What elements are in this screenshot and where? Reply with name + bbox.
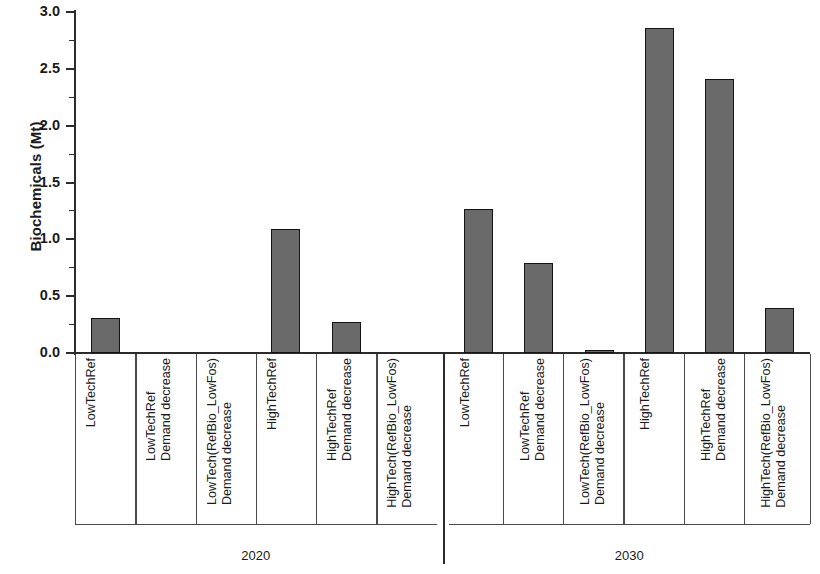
category-label: LowTech(RefBio_LowFos)Demand decrease [578,358,607,505]
bar [271,229,300,353]
category-label: HighTechRefDemand decrease [325,358,354,461]
category-separator [135,354,136,524]
category-label-line: HighTech(RefBio_LowFos) [759,358,774,508]
group-underline [449,524,811,525]
category-label-line: Demand decrease [159,358,174,461]
category-separator-edge [810,354,811,524]
y-tick-3.0 [66,11,74,13]
category-label-line: LowTech(RefBio_LowFos) [205,358,220,505]
bar [585,350,614,353]
y-tick-minor [69,97,74,98]
category-label-line: Demand decrease [532,358,547,461]
bar [765,308,794,353]
category-label-line: LowTechRef [144,358,159,461]
category-label-line: Demand decrease [773,358,788,508]
category-separator-edge [75,354,76,524]
category-separator [503,354,504,524]
category-label: LowTechRef [458,358,473,427]
bar [645,28,674,353]
category-label-line: HighTechRef [699,358,714,461]
y-tick-label-0.5: 0.5 [8,287,60,303]
bar [464,209,493,353]
group-separator [443,354,445,564]
category-separator [196,354,197,524]
category-label-line: HighTech(RefBio_LowFos) [385,358,400,508]
category-label-line: HighTechRef [265,358,280,430]
category-separator [684,354,685,524]
category-label-line: HighTechRef [638,358,653,430]
y-tick-0.0 [66,352,74,354]
category-label-line: LowTechRef [84,358,99,427]
bar-chart: Biochemicals (Mt) 0.00.51.01.52.02.53.0 … [0,0,820,574]
y-tick-label-3.0: 3.0 [8,3,60,19]
category-label-line: Demand decrease [713,358,728,461]
category-separator [376,354,377,524]
category-label: HighTech(RefBio_LowFos)Demand decrease [385,358,414,508]
bar [524,263,553,353]
category-label: HighTechRefDemand decrease [699,358,728,461]
group-underline [75,524,437,525]
category-separator [563,354,564,524]
y-tick-label-2.5: 2.5 [8,60,60,76]
category-separator [744,354,745,524]
category-label-line: Demand decrease [340,358,355,461]
group-label-2030: 2030 [449,548,811,563]
category-label-line: LowTech(RefBio_LowFos) [578,358,593,505]
y-tick-0.5 [66,295,74,297]
y-tick-minor [69,154,74,155]
category-label: LowTechRefDemand decrease [144,358,173,461]
category-label: LowTechRef [84,358,99,427]
y-tick-minor [69,324,74,325]
y-axis-line [74,10,76,355]
category-separator [256,354,257,524]
group-label-2020: 2020 [75,548,437,563]
category-separator [316,354,317,524]
bar [91,318,120,353]
category-label-line: Demand decrease [400,358,415,508]
y-tick-label-1.0: 1.0 [8,230,60,246]
y-tick-label-1.5: 1.5 [8,174,60,190]
y-tick-minor [69,40,74,41]
category-label: LowTech(RefBio_LowFos)Demand decrease [205,358,234,505]
category-label: HighTech(RefBio_LowFos)Demand decrease [759,358,788,508]
category-label: LowTechRefDemand decrease [518,358,547,461]
category-label: HighTechRef [638,358,653,430]
bar [705,79,734,353]
y-tick-1.5 [66,182,74,184]
y-tick-2.5 [66,68,74,70]
category-label-line: Demand decrease [219,358,234,505]
y-tick-2.0 [66,125,74,127]
category-separator [623,354,624,524]
category-label-line: LowTechRef [518,358,533,461]
y-tick-minor [69,210,74,211]
category-label-line: Demand decrease [593,358,608,505]
bar [332,322,361,353]
y-tick-label-0.0: 0.0 [8,344,60,360]
y-tick-label-2.0: 2.0 [8,117,60,133]
y-tick-minor [69,267,74,268]
category-label-line: HighTechRef [325,358,340,461]
category-label: HighTechRef [265,358,280,430]
y-tick-1.0 [66,238,74,240]
category-label-line: LowTechRef [458,358,473,427]
